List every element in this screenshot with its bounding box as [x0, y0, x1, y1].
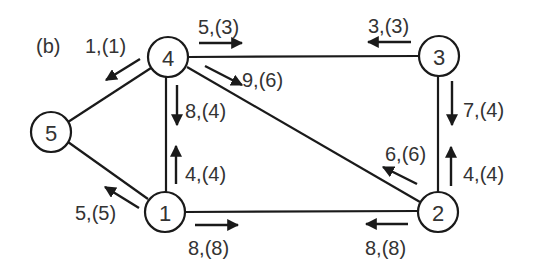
edge-4-3: [188, 56, 419, 57]
node-4: 4: [148, 37, 188, 77]
flow-label-2-3: 4,(4): [463, 163, 504, 185]
flow-label-4-2: 9,(6): [242, 69, 283, 91]
flow-label-3-2: 7,(4): [463, 99, 504, 121]
edge-5-1: [68, 142, 148, 199]
node-3-label: 3: [433, 45, 445, 70]
node-3: 3: [419, 36, 459, 76]
node-5-label: 5: [45, 121, 57, 146]
flow-label-4-5: 1,(1): [85, 35, 126, 57]
network-flow-diagram: (b) 5,(3) 3,(3) 1,(1) 9,(6) 8,(4) 4,(4) …: [0, 0, 538, 270]
node-2-label: 2: [432, 201, 444, 226]
flow-label-1-5: 5,(5): [75, 202, 116, 224]
edge-4-5: [68, 68, 151, 122]
panel-label: (b): [36, 35, 60, 57]
node-4-label: 4: [162, 46, 174, 71]
node-5: 5: [31, 112, 71, 152]
arrow-2-to-4-icon: [383, 167, 417, 184]
node-2: 2: [418, 192, 458, 232]
flow-label-2-4: 6,(6): [385, 143, 426, 165]
node-1: 1: [145, 192, 185, 232]
flow-label-4-1: 8,(4): [185, 100, 226, 122]
flow-label-1-2: 8,(8): [188, 237, 229, 259]
arrow-4-to-2-icon: [205, 66, 242, 85]
flow-label-1-4: 4,(4): [185, 163, 226, 185]
flow-label-3-4: 3,(3): [368, 15, 409, 37]
flow-label-4-3: 5,(3): [198, 16, 239, 38]
node-1-label: 1: [159, 201, 171, 226]
edge-1-2: [185, 211, 418, 212]
flow-label-2-1: 8,(8): [365, 237, 406, 259]
arrow-4-to-5-icon: [106, 59, 140, 80]
